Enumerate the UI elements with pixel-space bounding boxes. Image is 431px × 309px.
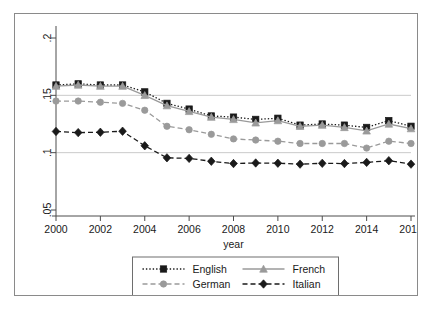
y-tick-labels: .05.1.15.2	[41, 33, 53, 217]
x-tick-label: 2010	[266, 223, 290, 235]
legend-label: English	[193, 263, 228, 275]
x-tick-labels: 200020022004200620082010201220142016	[44, 223, 417, 235]
x-tick-label: 2002	[89, 223, 113, 235]
series-german	[53, 98, 414, 151]
x-axis-title: year	[223, 238, 244, 250]
legend-label: Italian	[293, 278, 321, 290]
y-tick-marks	[51, 38, 56, 210]
x-tick-label: 2014	[355, 223, 379, 235]
legend-marker	[160, 266, 166, 272]
data-point	[97, 99, 103, 105]
data-point	[53, 98, 59, 104]
x-tick-label: 2012	[311, 223, 335, 235]
x-tick-marks	[56, 216, 411, 221]
data-point	[297, 140, 303, 146]
data-point	[163, 154, 171, 162]
y-tick-label: .15	[41, 88, 53, 103]
data-point	[252, 137, 258, 143]
y-tick-label: .2	[41, 33, 53, 42]
data-point	[341, 159, 349, 167]
gridlines	[56, 95, 411, 152]
y-tick-label: .05	[41, 203, 53, 218]
data-point	[208, 131, 214, 137]
chart-legend[interactable]: EnglishFrenchGermanItalian	[133, 257, 339, 295]
data-point	[74, 128, 82, 136]
data-point	[319, 140, 325, 146]
data-point	[341, 140, 347, 146]
series-italian	[52, 127, 415, 168]
data-point	[296, 160, 304, 168]
x-tick-label: 2000	[44, 223, 68, 235]
series-english	[53, 81, 414, 131]
x-tick-label: 2004	[133, 223, 157, 235]
data-point	[208, 157, 216, 165]
x-tick-label: 2008	[222, 223, 246, 235]
series-french	[52, 81, 415, 134]
data-point	[52, 127, 60, 135]
x-tick-label: 2006	[177, 223, 201, 235]
data-point	[318, 159, 326, 167]
data-point	[119, 127, 127, 135]
data-point	[97, 128, 105, 136]
data-point	[363, 158, 371, 166]
legend-label: German	[193, 278, 231, 290]
data-point	[274, 159, 282, 167]
y-tick-label: .1	[41, 148, 53, 157]
data-point	[275, 138, 281, 144]
data-point	[385, 156, 393, 164]
data-point	[252, 159, 260, 167]
line-chart: .05.1.15.2 20002002200420062008201020122…	[15, 14, 417, 295]
data-point	[230, 159, 238, 167]
data-point	[119, 100, 125, 106]
chart-frame: .05.1.15.2 20002002200420062008201020122…	[14, 13, 418, 296]
data-series-group	[52, 81, 415, 169]
data-point	[186, 127, 192, 133]
data-point	[141, 142, 149, 150]
data-point	[142, 107, 148, 113]
data-point	[386, 138, 392, 144]
data-point	[230, 136, 236, 142]
legend-marker	[160, 281, 166, 287]
data-point	[75, 98, 81, 104]
data-point	[408, 140, 414, 146]
data-point	[363, 145, 369, 151]
data-point	[164, 123, 170, 129]
x-tick-label: 2016	[399, 223, 417, 235]
data-point	[185, 154, 193, 162]
legend-label: French	[293, 263, 326, 275]
data-point	[407, 160, 415, 168]
series-line	[56, 85, 411, 131]
